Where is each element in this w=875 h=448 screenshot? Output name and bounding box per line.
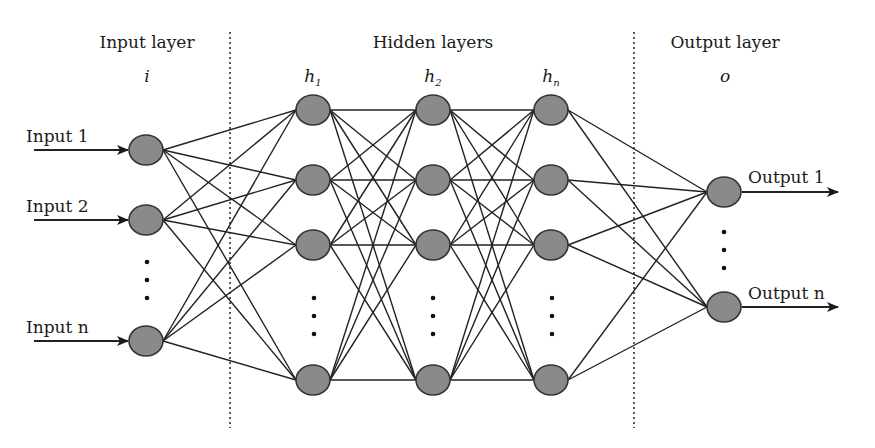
input-node [129, 135, 163, 165]
hidden-n-ellipsis [550, 296, 555, 337]
hidden-layer-2-symbol: h2 [424, 66, 441, 88]
input-ellipsis [145, 260, 150, 301]
hidden-3-node [534, 165, 568, 195]
connection-edge [568, 192, 707, 380]
hidden-1-node [296, 365, 330, 395]
hidden-layer-n-symbol: hn [542, 66, 559, 88]
input-2-label: Input 2 [26, 196, 89, 216]
connection-edge [568, 307, 707, 380]
hidden-3-node [534, 95, 568, 125]
output-ellipsis [722, 230, 727, 271]
connection-edge [568, 110, 707, 307]
hidden-layers-title: Hidden layers [373, 32, 494, 52]
connection-edge [568, 180, 707, 192]
hidden-2-node [416, 230, 450, 260]
connection-edge [568, 245, 707, 307]
hidden-1-node [296, 165, 330, 195]
hidden-layer-1-symbol: h1 [304, 66, 321, 88]
output-1-label: Output 1 [748, 167, 825, 187]
hidden-3-node [534, 365, 568, 395]
input-node [129, 326, 163, 356]
hidden-1-ellipsis [312, 296, 317, 337]
input-layer-symbol: i [144, 66, 149, 86]
hidden-2-node [416, 165, 450, 195]
input-1-label: Input 1 [26, 126, 89, 146]
connection-edge [163, 150, 296, 380]
hidden-2-ellipsis [431, 296, 436, 337]
neural-network-diagram: Input layer Hidden layers Output layer i… [0, 0, 875, 448]
hidden-3-node [534, 230, 568, 260]
input-layer-title: Input layer [99, 32, 195, 52]
connection-edge [568, 110, 707, 192]
output-layer-title: Output layer [670, 32, 780, 52]
hidden-1-node [296, 95, 330, 125]
input-node [129, 205, 163, 235]
hidden-2-node [416, 95, 450, 125]
hidden-1-node [296, 230, 330, 260]
output-layer-symbol: o [720, 66, 730, 86]
output-node [707, 177, 741, 207]
neurons [129, 95, 741, 395]
output-node [707, 292, 741, 322]
connection-edge [163, 245, 296, 341]
connection-edge [568, 180, 707, 307]
input-n-label: Input n [26, 317, 89, 337]
hidden-2-node [416, 365, 450, 395]
output-n-label: Output n [748, 283, 825, 303]
